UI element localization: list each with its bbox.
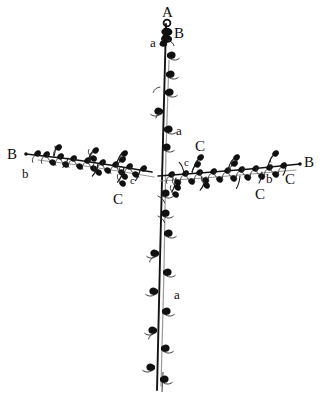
label-a-lower-stem: a [174,288,180,301]
label-a-apex: A [162,5,173,20]
label-c-right-upper: C [195,139,205,154]
label-b-left-lower: b [22,167,29,180]
main-axis [157,24,169,392]
label-c-right-end: C [285,172,295,187]
label-c-right-small: c [184,157,189,168]
label-a-upper-stem: a [176,124,182,137]
label-c-center-small: c [130,175,135,186]
botanical-figure: A B a a B b C c c C C b C B a [0,0,322,408]
label-c-center-lower: C [113,192,123,207]
right-lateral-branch [158,150,302,198]
label-b-apex-bud: B [174,26,184,41]
label-b-right-lower: b [266,172,273,185]
label-c-right-lower: C [255,187,265,202]
label-b-right-end: B [304,155,314,170]
figure-drawing [0,0,322,408]
label-b-left-end: B [7,147,17,162]
label-a-lower-apex: a [150,36,156,49]
